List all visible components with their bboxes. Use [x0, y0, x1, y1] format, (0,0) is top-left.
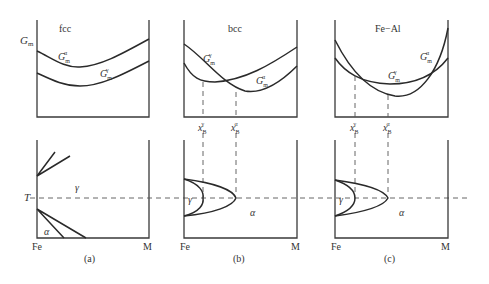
panel-a: fcc Gm Gmα Gmγ γ α T Fe M (a) — [20, 20, 152, 265]
x-left-b: Fe — [180, 241, 191, 252]
caption-c: (c) — [384, 253, 395, 265]
caption-b: (b) — [233, 253, 245, 265]
phase-gamma-c: γ — [339, 194, 344, 205]
x-marker-gamma-b: xBγ — [197, 121, 206, 135]
caption-a: (a) — [84, 253, 95, 265]
g-alpha-curve-b — [184, 47, 297, 82]
gamma-loop-inner-b — [184, 179, 203, 216]
x-left-a: Fe — [32, 241, 43, 252]
panel-c: Fe−Al Gmα Gmγ xBγ xBα γ α Fe M (c) — [331, 20, 450, 265]
x-right-a: M — [143, 241, 152, 252]
temperature-label: T — [24, 191, 31, 203]
phase-diagram-figure: fcc Gm Gmα Gmγ γ α T Fe M (a) bcc Gmγ Gm… — [0, 0, 489, 284]
label-g-gamma-b: Gmγ — [203, 52, 215, 66]
label-g-alpha-b: Gmα — [256, 74, 268, 88]
panel-a-title: fcc — [59, 23, 72, 34]
composition-drops-c — [355, 133, 388, 196]
panel-b: bcc Gmγ Gmα xBγ xBα γ α Fe M (b) — [180, 20, 300, 265]
x-right-b: M — [291, 241, 300, 252]
x-marker-alpha-b: xBα — [230, 121, 239, 135]
tangent-drops-b — [203, 82, 236, 117]
x-marker-gamma-c: xBγ — [349, 121, 358, 135]
panel-c-title: Fe−Al — [375, 23, 401, 34]
label-g-gamma-a: Gmγ — [100, 67, 112, 81]
y-axis-label: Gm — [20, 34, 34, 48]
panel-b-title: bcc — [228, 23, 242, 34]
phase-gamma-a: γ — [75, 182, 80, 193]
x-marker-alpha-c: xBα — [382, 121, 391, 135]
panel-b-energy-frame — [184, 20, 297, 117]
panel-a-energy-frame — [37, 20, 149, 117]
label-g-gamma-c: Gmγ — [388, 69, 400, 83]
x-right-c: M — [441, 241, 450, 252]
label-g-alpha-c: Gmα — [420, 50, 432, 64]
phase-alpha-b: α — [250, 207, 256, 218]
g-gamma-curve-b — [184, 44, 297, 91]
gamma-delta-boundary-a — [37, 152, 70, 176]
g-alpha-curve-a — [37, 39, 149, 67]
label-g-alpha-a: Gmα — [58, 50, 70, 64]
phase-alpha-a: α — [44, 226, 50, 237]
phase-alpha-c: α — [399, 207, 405, 218]
x-left-c: Fe — [331, 241, 342, 252]
phase-gamma-b: γ — [188, 194, 193, 205]
